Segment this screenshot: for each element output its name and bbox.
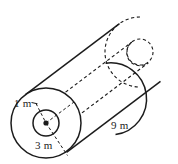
inner-radius-label: 1 m [14,98,31,109]
figure-canvas [0,0,178,164]
outer-radius-label: 3 m [35,140,52,151]
cylinder-with-hole-figure: 1 m 3 m 9 m [0,0,178,164]
length-label: 9 m [111,120,128,131]
